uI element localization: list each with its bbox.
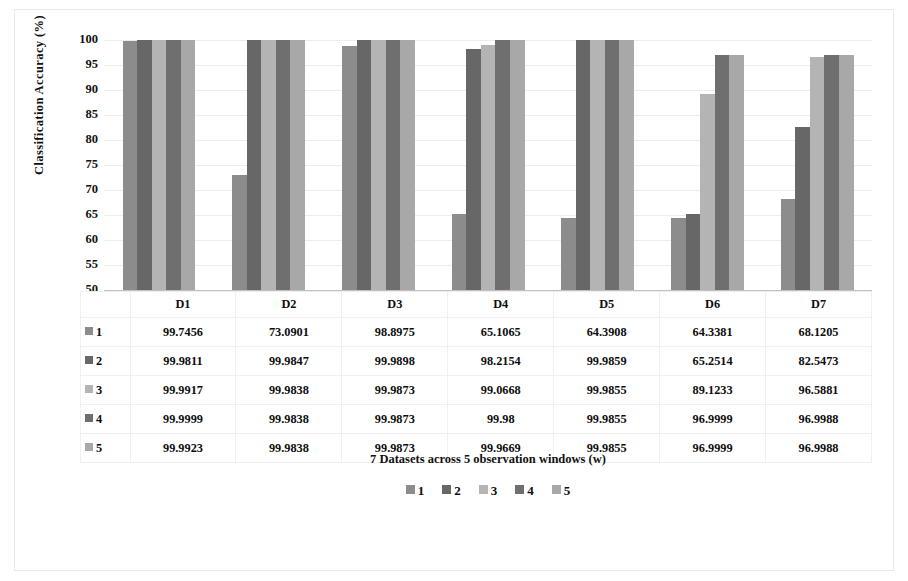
table-row: 199.745673.090198.897565.106564.390864.3… — [81, 318, 872, 347]
figure-canvas: Classification Accuracy (%) 100959085807… — [0, 0, 908, 581]
bar-D7-w1[interactable] — [781, 199, 796, 290]
data-table-body: D1D2D3D4D5D6D7199.745673.090198.897565.1… — [81, 292, 872, 463]
bar-D3-w2[interactable] — [357, 40, 372, 290]
bar-D3-w1[interactable] — [342, 46, 357, 290]
table-cell-D3-w1: 98.8975 — [342, 318, 448, 347]
legend-swatch-icon-2 — [442, 485, 451, 494]
data-table: D1D2D3D4D5D6D7199.745673.090198.897565.1… — [80, 291, 872, 463]
table-col-header-D2: D2 — [236, 292, 342, 318]
legend-swatch-icon-4 — [515, 485, 524, 494]
table-col-header-D7: D7 — [766, 292, 872, 318]
table-corner-cell — [81, 292, 131, 318]
table-cell-D6-w1: 64.3381 — [660, 318, 766, 347]
table-cell-D5-w2: 99.9859 — [554, 347, 660, 376]
bar-D1-w2[interactable] — [137, 40, 152, 290]
table-col-header-D1: D1 — [130, 292, 236, 318]
table-col-header-D4: D4 — [448, 292, 554, 318]
bar-D1-w4[interactable] — [166, 40, 181, 290]
y-tick-label-80: 80 — [52, 132, 98, 147]
legend-item-label: 5 — [564, 483, 571, 498]
bar-D4-w3[interactable] — [481, 45, 496, 290]
bar-D5-w1[interactable] — [561, 218, 576, 290]
legend-item-3[interactable]: 3 — [479, 483, 498, 499]
legend-item-4[interactable]: 4 — [515, 483, 534, 499]
table-cell-D4-w3: 99.0668 — [448, 376, 554, 405]
table-col-header-D5: D5 — [554, 292, 660, 318]
bar-D7-w3[interactable] — [810, 57, 825, 290]
bar-D2-w4[interactable] — [276, 40, 291, 290]
legend-item-1[interactable]: 1 — [406, 483, 425, 499]
table-row-label-4: 4 — [81, 405, 131, 434]
legend-item-label: 3 — [491, 483, 498, 498]
bar-D6-w4[interactable] — [715, 55, 730, 290]
bar-group-D7 — [762, 40, 872, 290]
bar-D6-w5[interactable] — [729, 55, 744, 290]
y-tick-label-70: 70 — [52, 182, 98, 197]
bar-D2-w3[interactable] — [261, 40, 276, 290]
chart-legend: 12345 — [104, 481, 872, 499]
bar-D4-w2[interactable] — [466, 49, 481, 290]
table-row: 299.981199.984799.989898.215499.985965.2… — [81, 347, 872, 376]
table-cell-D7-w3: 96.5881 — [766, 376, 872, 405]
bar-D7-w2[interactable] — [795, 127, 810, 290]
table-cell-D4-w2: 98.2154 — [448, 347, 554, 376]
legend-item-2[interactable]: 2 — [442, 483, 461, 499]
table-cell-D2-w1: 73.0901 — [236, 318, 342, 347]
bar-D5-w4[interactable] — [605, 40, 620, 290]
bar-D2-w1[interactable] — [232, 175, 247, 290]
bar-group-D1 — [104, 40, 214, 290]
bar-D4-w1[interactable] — [452, 214, 467, 290]
table-cell-D3-w2: 99.9898 — [342, 347, 448, 376]
table-cell-D5-w3: 99.9855 — [554, 376, 660, 405]
y-tick-label-65: 65 — [52, 207, 98, 222]
series-swatch-icon-4 — [85, 414, 93, 422]
table-cell-D2-w4: 99.9838 — [236, 405, 342, 434]
bar-group-D2 — [214, 40, 324, 290]
series-swatch-icon-5 — [85, 443, 93, 451]
table-cell-D4-w4: 99.98 — [448, 405, 554, 434]
y-tick-label-55: 55 — [52, 257, 98, 272]
x-axis-title: 7 Datasets across 5 observation windows … — [104, 452, 872, 467]
bar-D3-w4[interactable] — [386, 40, 401, 290]
bar-D4-w5[interactable] — [510, 40, 525, 290]
bar-D6-w1[interactable] — [671, 218, 686, 290]
bar-D3-w3[interactable] — [371, 40, 386, 290]
table-cell-D7-w4: 96.9988 — [766, 405, 872, 434]
y-tick-label-75: 75 — [52, 157, 98, 172]
legend-item-label: 4 — [527, 483, 534, 498]
table-col-header-D6: D6 — [660, 292, 766, 318]
bar-D5-w5[interactable] — [619, 40, 634, 290]
table-cell-D1-w1: 99.7456 — [130, 318, 236, 347]
table-row-label-text: 4 — [96, 412, 102, 426]
bar-D2-w5[interactable] — [290, 40, 305, 290]
bar-D6-w2[interactable] — [686, 214, 701, 290]
table-row-label-2: 2 — [81, 347, 131, 376]
bar-D7-w5[interactable] — [839, 55, 854, 290]
table-cell-D6-w2: 65.2514 — [660, 347, 766, 376]
series-swatch-icon-2 — [85, 356, 93, 364]
table-cell-D6-w4: 96.9999 — [660, 405, 766, 434]
bar-D5-w2[interactable] — [576, 40, 591, 290]
bar-D3-w5[interactable] — [400, 40, 415, 290]
bar-D6-w3[interactable] — [700, 94, 715, 290]
table-cell-D6-w3: 89.1233 — [660, 376, 766, 405]
legend-item-5[interactable]: 5 — [552, 483, 571, 499]
table-row-label-text: 5 — [96, 441, 102, 455]
table-cell-D2-w2: 99.9847 — [236, 347, 342, 376]
bar-D7-w4[interactable] — [824, 55, 839, 290]
bar-D2-w2[interactable] — [247, 40, 262, 290]
bar-D5-w3[interactable] — [590, 40, 605, 290]
table-cell-D2-w3: 99.9838 — [236, 376, 342, 405]
series-swatch-icon-1 — [85, 327, 93, 335]
legend-swatch-icon-1 — [406, 485, 415, 494]
bar-D1-w3[interactable] — [152, 40, 167, 290]
bar-D1-w5[interactable] — [181, 40, 196, 290]
bar-group-D4 — [433, 40, 543, 290]
bar-D4-w4[interactable] — [495, 40, 510, 290]
table-header-row: D1D2D3D4D5D6D7 — [81, 292, 872, 318]
table-cell-D3-w4: 99.9873 — [342, 405, 448, 434]
table-row-label-text: 1 — [96, 325, 102, 339]
bar-D1-w1[interactable] — [123, 41, 138, 290]
table-cell-D1-w3: 99.9917 — [130, 376, 236, 405]
bar-group-D5 — [543, 40, 653, 290]
